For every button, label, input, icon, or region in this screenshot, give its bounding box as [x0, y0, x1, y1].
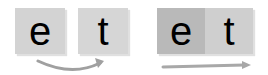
straight-arrow-icon: [163, 61, 251, 69]
curved-arrow-icon: [38, 58, 104, 70]
arrows-layer: [0, 0, 268, 75]
